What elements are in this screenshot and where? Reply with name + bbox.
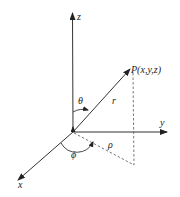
rho-projection-line bbox=[74, 133, 134, 165]
z-axis-label: z bbox=[76, 11, 81, 22]
phi-angle: ϕ bbox=[61, 142, 93, 160]
vertical-projection-line bbox=[133, 73, 134, 165]
phi-label: ϕ bbox=[71, 149, 76, 160]
x-axis: x bbox=[17, 132, 73, 190]
theta-angle: θ bbox=[73, 95, 88, 112]
radius-label: r bbox=[112, 95, 116, 106]
x-axis-label: x bbox=[17, 179, 23, 190]
rho-label: ρ bbox=[107, 139, 113, 150]
z-axis: z bbox=[73, 11, 82, 132]
y-axis-label: y bbox=[159, 117, 165, 128]
point-label: P(x,y,z) bbox=[130, 64, 162, 76]
y-axis: y bbox=[73, 117, 167, 132]
theta-label: θ bbox=[78, 95, 83, 106]
spherical-coordinates-diagram: z y x r P(x,y,z) ρ θ ϕ bbox=[0, 0, 180, 197]
